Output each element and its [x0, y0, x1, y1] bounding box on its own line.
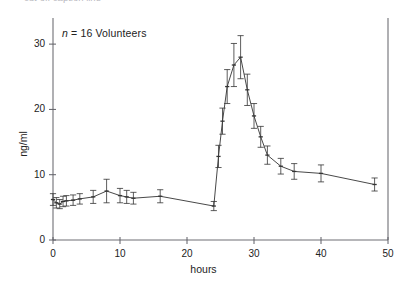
x-tick-label: 40 — [308, 248, 334, 259]
sample-size-text: = 16 Volunteers — [68, 27, 147, 39]
plot-area — [0, 0, 407, 288]
x-tick-label: 50 — [375, 248, 401, 259]
x-tick-label: 20 — [174, 248, 200, 259]
axes-lines — [53, 18, 388, 240]
x-tick-label: 10 — [107, 248, 133, 259]
y-tick-label: 20 — [19, 103, 45, 114]
figure-container: cut-off caption line n = 16 Volunteers n… — [0, 0, 407, 288]
y-tick-label: 0 — [19, 234, 45, 245]
x-axis-title: hours — [0, 263, 407, 275]
data-series-markers — [51, 57, 377, 206]
x-tick-label: 30 — [241, 248, 267, 259]
data-series-error-bars — [50, 36, 378, 211]
y-axis-title: ng/ml — [17, 114, 29, 174]
axis-ticks — [49, 44, 388, 244]
sample-size-annotation: n = 16 Volunteers — [62, 27, 147, 39]
data-series-line — [53, 57, 375, 206]
y-tick-label: 10 — [19, 169, 45, 180]
y-tick-label: 30 — [19, 38, 45, 49]
x-tick-label: 0 — [40, 248, 66, 259]
